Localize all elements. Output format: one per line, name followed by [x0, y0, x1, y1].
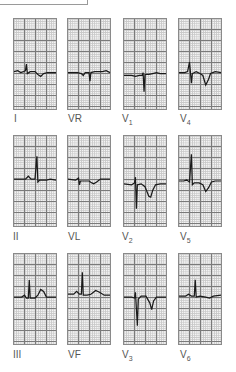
lead-label-v4: V4	[180, 114, 191, 128]
ecg-trace-v6	[179, 254, 221, 344]
ecg-trace-vr	[68, 19, 110, 109]
ecg-lead-v6-panel	[178, 253, 222, 345]
ecg-trace-v2	[124, 136, 166, 226]
ecg-lead-v3-panel	[123, 253, 167, 345]
ecg-lead-v2-panel	[123, 135, 167, 227]
lead-label-v6: V6	[180, 350, 191, 364]
ecg-lead-v4-panel	[178, 18, 222, 110]
lead-label-vf: VF	[68, 350, 81, 364]
ecg-lead-ii-panel	[13, 135, 57, 227]
lead-label-ii: II	[13, 232, 19, 246]
ecg-trace-vl	[68, 136, 110, 226]
ecg-trace-vf	[68, 254, 110, 344]
ecg-trace-v4	[179, 19, 221, 109]
ecg-trace-iii	[14, 254, 56, 344]
ecg-lead-v1-panel	[123, 18, 167, 110]
ecg-lead-vl-panel	[67, 135, 111, 227]
ecg-lead-vr-panel	[67, 18, 111, 110]
lead-label-vr: VR	[68, 114, 82, 128]
lead-label-v3: V3	[122, 350, 133, 364]
lead-label-i: I	[14, 114, 17, 128]
lead-label-v5: V5	[180, 232, 191, 246]
ecg-lead-iii-panel	[13, 253, 57, 345]
lead-label-iii: III	[13, 350, 21, 364]
ecg-trace-v1	[124, 19, 166, 109]
lead-label-v2: V2	[122, 232, 133, 246]
ecg-lead-i-panel	[13, 18, 57, 110]
top-caption-box	[0, 0, 88, 5]
ecg-trace-v3	[124, 254, 166, 344]
ecg-lead-v5-panel	[178, 135, 222, 227]
ecg-lead-vf-panel	[67, 253, 111, 345]
lead-label-vl: VL	[68, 232, 80, 246]
lead-label-v1: V1	[122, 114, 133, 128]
ecg-trace-v5	[179, 136, 221, 226]
ecg-trace-i	[14, 19, 56, 109]
ecg-trace-ii	[14, 136, 56, 226]
